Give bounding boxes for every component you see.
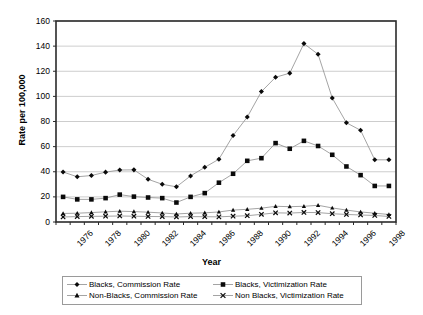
legend-label: Non Blacks, Victimization Rate bbox=[234, 290, 344, 301]
data-point-diamond bbox=[372, 157, 377, 162]
legend-item-blacks-commission[interactable]: Blacks, Commission Rate bbox=[66, 279, 212, 290]
data-point-square bbox=[358, 173, 363, 178]
legend-item-nonblacks-victimization[interactable]: Non Blacks, Victimization Rate bbox=[212, 290, 358, 301]
data-point-square bbox=[316, 144, 321, 149]
data-point-diamond bbox=[160, 182, 165, 187]
diamond-marker-icon bbox=[66, 279, 88, 290]
chart-legend: Blacks, Commission Rate Blacks, Victimiz… bbox=[62, 276, 362, 305]
data-point-square bbox=[231, 171, 236, 176]
x-marker-icon bbox=[212, 290, 234, 301]
data-point-diamond bbox=[358, 128, 363, 133]
legend-row-2: Non-Blacks, Commission Rate Non Blacks, … bbox=[66, 290, 358, 301]
data-point-diamond bbox=[344, 120, 349, 125]
legend-item-nonblacks-commission[interactable]: Non-Blacks, Commission Rate bbox=[66, 290, 212, 301]
data-point-diamond bbox=[386, 157, 391, 162]
data-point-square bbox=[287, 146, 292, 151]
legend-label: Blacks, Victimization Rate bbox=[234, 279, 327, 290]
data-point-diamond bbox=[89, 173, 94, 178]
data-point-square bbox=[273, 141, 278, 146]
data-point-square bbox=[188, 195, 193, 200]
data-point-diamond bbox=[103, 170, 108, 175]
data-point-diamond bbox=[75, 174, 80, 179]
series-line bbox=[63, 212, 389, 217]
triangle-marker-icon bbox=[66, 290, 88, 301]
data-point-square bbox=[344, 164, 349, 169]
data-point-square bbox=[387, 184, 392, 189]
square-marker-icon bbox=[212, 279, 234, 290]
chart-container: Rate per 100,000 Year 020406080100120140… bbox=[0, 0, 423, 315]
data-point-square bbox=[372, 184, 377, 189]
data-point-triangle bbox=[316, 203, 320, 207]
legend-label: Non-Blacks, Commission Rate bbox=[88, 290, 197, 301]
data-point-square bbox=[75, 197, 80, 202]
data-point-square bbox=[259, 156, 264, 161]
data-point-diamond bbox=[146, 177, 151, 182]
legend-item-blacks-victimization[interactable]: Blacks, Victimization Rate bbox=[212, 279, 358, 290]
data-point-square bbox=[103, 196, 108, 201]
data-point-square bbox=[202, 191, 207, 196]
data-point-diamond bbox=[61, 169, 66, 174]
data-point-square bbox=[302, 139, 307, 144]
plot-area bbox=[0, 0, 423, 315]
data-point-diamond bbox=[216, 157, 221, 162]
data-point-square bbox=[132, 194, 137, 199]
data-point-square bbox=[146, 195, 151, 200]
data-point-square bbox=[174, 200, 179, 205]
data-point-diamond bbox=[202, 165, 207, 170]
data-point-square bbox=[217, 180, 222, 185]
series-line bbox=[63, 44, 389, 187]
legend-row-1: Blacks, Commission Rate Blacks, Victimiz… bbox=[66, 279, 358, 290]
legend-label: Blacks, Commission Rate bbox=[88, 279, 180, 290]
data-point-square bbox=[160, 196, 165, 201]
data-point-square bbox=[330, 153, 335, 158]
data-point-square bbox=[245, 159, 250, 164]
data-point-square bbox=[61, 195, 66, 200]
series-line bbox=[63, 205, 389, 214]
data-point-square bbox=[117, 192, 122, 197]
data-point-square bbox=[89, 197, 94, 202]
